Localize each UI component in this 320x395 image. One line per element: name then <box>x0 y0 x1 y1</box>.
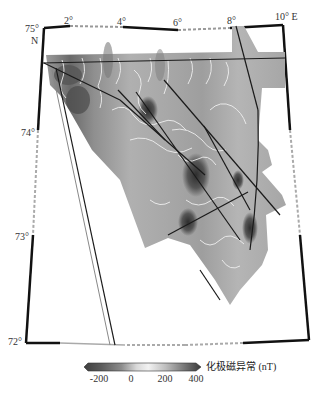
lat-label-n: N <box>31 36 38 46</box>
anomaly-map <box>0 0 320 395</box>
colorbar <box>84 363 201 371</box>
lat-label-72: 72° <box>8 337 22 347</box>
colorbar-title: 化极磁异常 (nT) <box>206 362 276 372</box>
lon-label-10e: 10° E <box>275 12 298 22</box>
lon-label-6: 6° <box>173 18 182 28</box>
lat-label-74: 74° <box>21 128 35 138</box>
colorbar-tick-0: 0 <box>129 374 134 384</box>
colorbar-tick-200: 200 <box>158 374 173 384</box>
lon-label-8: 8° <box>227 16 236 26</box>
colorbar-tick-400: 400 <box>189 374 204 384</box>
lat-label-73: 73° <box>15 232 29 242</box>
lon-label-2: 2° <box>64 16 73 26</box>
lon-label-4: 4° <box>117 17 126 27</box>
anomaly-grid <box>46 26 286 305</box>
lat-label-75: 75° <box>25 24 39 34</box>
colorbar-tick-neg200: -200 <box>90 374 108 384</box>
